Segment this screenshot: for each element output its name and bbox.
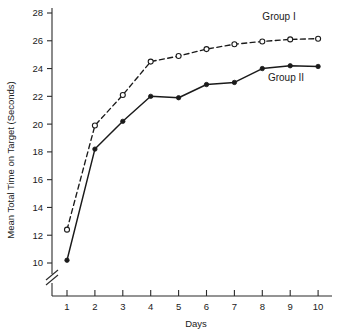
x-axis-title: Days bbox=[185, 318, 207, 329]
data-point-marker bbox=[204, 82, 208, 86]
x-tick-label: 9 bbox=[288, 301, 293, 312]
y-tick-label: 14 bbox=[32, 202, 43, 213]
data-point-marker bbox=[232, 42, 237, 47]
data-point-marker bbox=[121, 119, 125, 123]
series-line-2 bbox=[67, 66, 318, 260]
data-point-marker bbox=[260, 66, 264, 70]
y-tick-label: 12 bbox=[32, 230, 43, 241]
data-point-marker bbox=[288, 37, 293, 42]
y-tick-label: 20 bbox=[32, 119, 43, 130]
data-point-marker bbox=[93, 147, 97, 151]
data-point-marker bbox=[120, 92, 125, 97]
chart-figure: 10121416182022242628 12345678910 Group I… bbox=[0, 0, 337, 332]
y-tick-label: 26 bbox=[32, 35, 43, 46]
y-tick-label: 22 bbox=[32, 91, 43, 102]
x-tick-label: 2 bbox=[92, 301, 97, 312]
data-point-marker bbox=[288, 64, 292, 68]
data-point-marker bbox=[316, 36, 321, 41]
y-tick-label: 28 bbox=[32, 7, 43, 18]
x-tick-label: 8 bbox=[260, 301, 265, 312]
data-point-marker bbox=[176, 96, 180, 100]
axes bbox=[46, 8, 332, 296]
series-annotations: Group IGroup II bbox=[262, 11, 304, 83]
x-tick-label: 4 bbox=[148, 301, 153, 312]
data-point-marker bbox=[148, 59, 153, 64]
x-axis-tick-labels: 12345678910 bbox=[64, 301, 323, 312]
data-point-marker bbox=[65, 258, 69, 262]
y-tick-label: 18 bbox=[32, 146, 43, 157]
x-tick-label: 10 bbox=[313, 301, 324, 312]
x-tick-label: 7 bbox=[232, 301, 237, 312]
series-label-2: Group II bbox=[268, 72, 304, 83]
data-point-marker bbox=[316, 64, 320, 68]
y-axis-title: Mean Total Time on Target (Seconds) bbox=[5, 81, 16, 239]
y-tick-label: 24 bbox=[32, 63, 43, 74]
x-tick-label: 5 bbox=[176, 301, 181, 312]
data-point-marker bbox=[92, 123, 97, 128]
data-point-marker bbox=[149, 94, 153, 98]
x-tick-label: 1 bbox=[64, 301, 69, 312]
data-series bbox=[65, 36, 321, 262]
x-tick-label: 3 bbox=[120, 301, 125, 312]
data-point-marker bbox=[204, 47, 209, 52]
data-point-marker bbox=[260, 39, 265, 44]
y-tick-label: 10 bbox=[32, 257, 43, 268]
y-tick-label: 16 bbox=[32, 174, 43, 185]
data-point-marker bbox=[176, 54, 181, 59]
series-label-1: Group I bbox=[262, 11, 295, 22]
data-point-marker bbox=[65, 227, 70, 232]
x-tick-label: 6 bbox=[204, 301, 209, 312]
line-chart-svg: 10121416182022242628 12345678910 Group I… bbox=[0, 0, 337, 332]
data-point-marker bbox=[232, 80, 236, 84]
y-axis-tick-labels: 10121416182022242628 bbox=[32, 7, 43, 268]
